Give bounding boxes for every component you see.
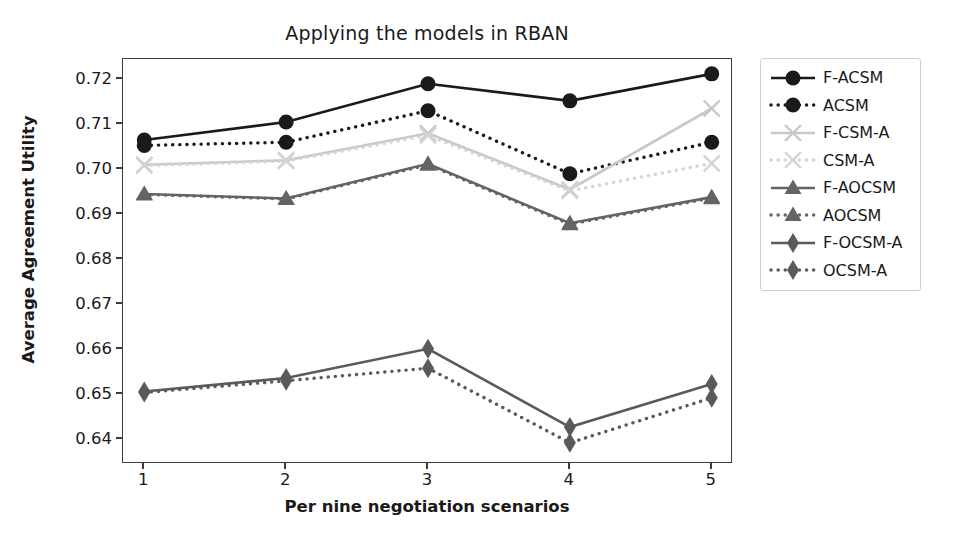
data-point <box>279 135 294 150</box>
legend-swatch-x-icon <box>768 122 818 144</box>
series-aocsm <box>136 156 720 230</box>
data-point <box>420 156 437 171</box>
y-tick-label: 0.72 <box>50 69 112 88</box>
series-ocsm-a <box>138 358 717 453</box>
legend-label: F-ACSM <box>823 68 883 87</box>
series-line <box>144 109 711 190</box>
plot-lines-svg <box>123 59 733 464</box>
legend-item-f-csm-a[interactable]: F-CSM-A <box>761 119 922 146</box>
x-tick-label: 5 <box>691 470 731 489</box>
y-tick-label: 0.64 <box>50 429 112 448</box>
legend-item-acsm[interactable]: ACSM <box>761 92 922 119</box>
legend-swatch-triangle-icon <box>768 204 818 226</box>
data-point <box>137 138 152 153</box>
data-point <box>421 76 436 91</box>
series-line <box>144 165 711 224</box>
legend-item-csm-a[interactable]: CSM-A <box>761 147 922 174</box>
legend-item-f-ocsm-a[interactable]: F-OCSM-A <box>761 229 922 256</box>
data-point <box>422 339 434 359</box>
legend-swatch-x-icon <box>768 149 818 171</box>
legend-item-aocsm[interactable]: AOCSM <box>761 202 922 229</box>
data-point <box>562 166 577 181</box>
legend-label: OCSM-A <box>823 261 887 280</box>
series-line <box>144 368 711 443</box>
x-tick-label: 4 <box>549 470 589 489</box>
y-axis-label: Average Agreement Utility <box>19 70 38 410</box>
x-tick-label: 3 <box>407 470 447 489</box>
legend-label: F-CSM-A <box>823 123 889 142</box>
legend-label: CSM-A <box>823 151 875 170</box>
data-point <box>422 358 434 378</box>
legend-swatch-circle-icon <box>768 94 818 116</box>
y-tick-label: 0.71 <box>50 114 112 133</box>
data-point <box>704 155 720 171</box>
y-tick-label: 0.70 <box>50 159 112 178</box>
series-f-ocsm-a <box>138 339 717 437</box>
legend-label: ACSM <box>823 96 869 115</box>
legend-item-ocsm-a[interactable]: OCSM-A <box>761 257 922 284</box>
plot-area <box>122 58 732 463</box>
chart-figure: Applying the models in RBAN Average Agre… <box>0 0 954 545</box>
legend-swatch-diamond-icon <box>768 232 818 254</box>
data-point <box>564 433 576 453</box>
y-tick-label: 0.66 <box>50 339 112 358</box>
legend-item-f-acsm[interactable]: F-ACSM <box>761 64 922 91</box>
chart-title: Applying the models in RBAN <box>122 22 732 44</box>
y-tick-label: 0.68 <box>50 249 112 268</box>
legend: F-ACSMACSMF-CSM-ACSM-AF-AOCSMAOCSMF-OCSM… <box>760 58 921 291</box>
data-point <box>703 190 720 205</box>
legend-swatch-circle-icon <box>768 67 818 89</box>
x-axis-label: Per nine negotiation scenarios <box>122 497 732 516</box>
x-tick-label: 1 <box>123 470 163 489</box>
legend-label: F-AOCSM <box>823 178 896 197</box>
data-point <box>704 66 719 81</box>
data-point <box>704 135 719 150</box>
legend-swatch-triangle-icon <box>768 177 818 199</box>
x-tick-label: 2 <box>265 470 305 489</box>
legend-label: AOCSM <box>823 206 881 225</box>
data-point <box>704 101 720 117</box>
data-point <box>138 382 150 402</box>
y-tick-label: 0.67 <box>50 294 112 313</box>
data-point <box>421 103 436 118</box>
data-point <box>280 371 292 391</box>
y-tick-label: 0.65 <box>50 384 112 403</box>
legend-swatch-diamond-icon <box>768 259 818 281</box>
legend-item-f-aocsm[interactable]: F-AOCSM <box>761 174 922 201</box>
legend-label: F-OCSM-A <box>823 233 903 252</box>
data-point <box>279 115 294 130</box>
series-line <box>144 164 711 223</box>
data-point <box>706 388 718 408</box>
data-point <box>562 183 578 199</box>
y-tick-label: 0.69 <box>50 204 112 223</box>
data-point <box>562 93 577 108</box>
